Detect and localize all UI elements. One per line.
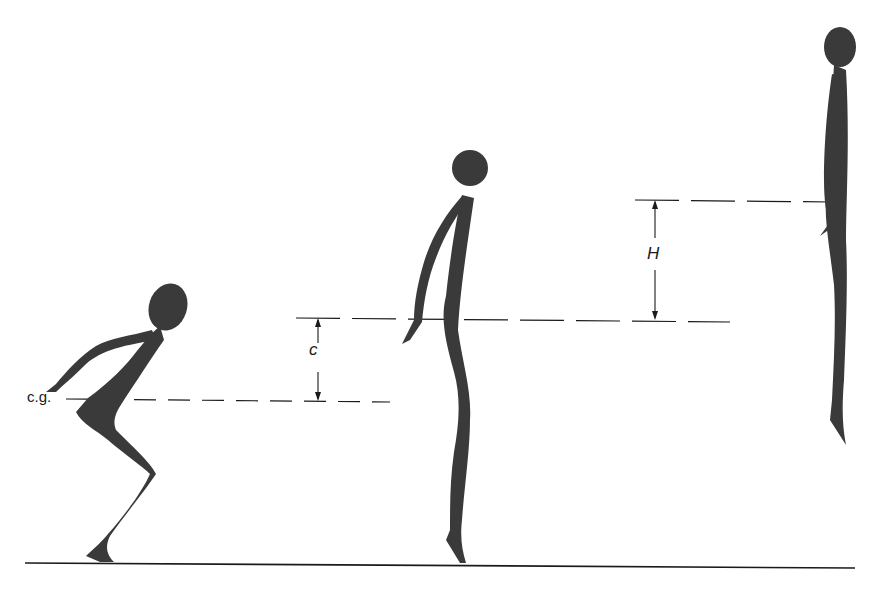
center-of-gravity-label: c.g. [27, 388, 51, 405]
h-height-label: H [647, 244, 659, 264]
cg-peak-dashed-line [635, 200, 830, 202]
ground-line [25, 563, 855, 568]
takeoff-figure [402, 150, 488, 563]
crouched-figure [46, 278, 193, 562]
c-distance-label: c [309, 340, 318, 360]
cg-takeoff-dashed-line [296, 318, 730, 322]
airborne-figure [820, 27, 856, 445]
vertical-jump-diagram: c.g. c H [0, 0, 877, 595]
